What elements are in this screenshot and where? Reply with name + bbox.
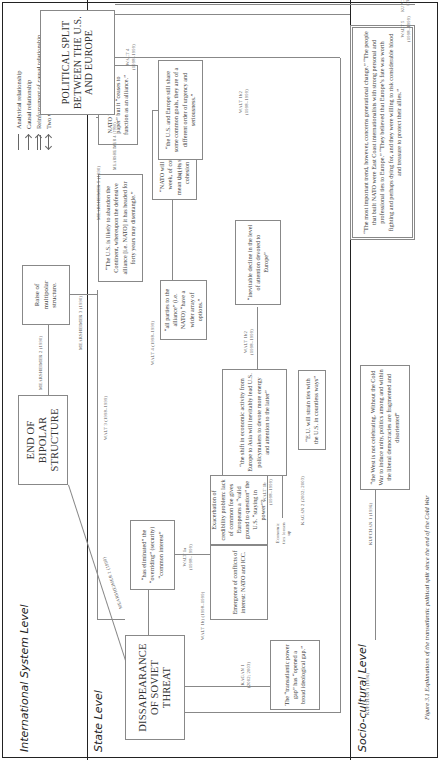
edge-label-walt3: WALT 3 (1998–1999)	[103, 396, 109, 440]
line-icon	[14, 134, 22, 150]
edge-state-bottom	[340, 58, 341, 713]
node-most-important-trend: “The most important trend, however, conc…	[350, 25, 415, 240]
figure-caption: Figure 3.1 Explanations of the transatla…	[423, 495, 430, 720]
edge-kupchan2-up	[115, 4, 415, 5]
node-transatlantic-gap: The “transatlantic power gap” has “opene…	[270, 640, 320, 710]
edge-label-kagan2: KAGAN 2 (2002; 2003)	[300, 476, 306, 525]
edge-label-mearsheimer4: MEARSHEIMER 4 (1990)	[112, 122, 117, 170]
edge-label-walt1b-bottom: WALT 1b) (1998–1999)	[200, 592, 206, 640]
node-has-eliminated: “has eliminated” the “overriding” (secur…	[130, 520, 175, 590]
edge-walt1a	[175, 554, 210, 555]
edge-label-kagan1: KAGAN 1(2002; 2003)	[240, 662, 251, 688]
arrow-icon	[24, 134, 32, 150]
edge-soviet-to-eliminated	[148, 590, 149, 635]
edge-label-walt1b2-b: WALT 1b2(1998–1999)	[238, 89, 249, 115]
node-west-not-celebrating: “the West is not celebrating. Without th…	[360, 365, 410, 490]
node-shift-economic: “the shift in economic activity from Eur…	[222, 369, 287, 476]
node-us-abandon: “The U.S. is likely to abandon the Conti…	[98, 174, 143, 282]
edge-label-kupchan1: KUPCHAN 1 (1996)	[368, 503, 374, 545]
edge-walt3-top-start	[97, 619, 125, 620]
edge-label-economic-ties: Economic ties loosen up	[275, 521, 292, 545]
edge-walt3-top	[97, 290, 98, 620]
edge-state-bottom-right	[115, 57, 340, 58]
edge-label-walt1a: WALT 1a(1998–1999)	[182, 544, 193, 570]
edge-walt5-up	[115, 14, 350, 15]
edge-label-mearsheimer2: MEARSHEIMER 2 (1990)	[38, 336, 44, 390]
edge-label-kupchan1-bottom: KUPCHAN 1 (1996)	[365, 673, 371, 715]
edge-label-mearsheimer5: MEARSHEIMER 5 (1990)	[96, 166, 102, 220]
level-label-international: International System Level	[18, 604, 31, 752]
node-us-europe-goals: “the U.S. and Europe still share some co…	[158, 60, 203, 160]
double-arrow-icon	[34, 134, 42, 150]
edge-label-walt4: WALT 4 (1998–1999)	[150, 321, 156, 365]
edge-state-bottom-left	[185, 712, 340, 713]
edge-mearsheimer5-v	[96, 117, 98, 118]
edge-walt1b	[282, 476, 283, 518]
node-political-split: POLITICAL SPLIT BETWEEN THE U.S. AND EUR…	[40, 10, 115, 115]
node-soviet-threat: DISSAPEARANCE OF SOVIET THREAT	[125, 635, 185, 740]
diagram-canvas: International System Level State Level S…	[0, 0, 440, 760]
level-label-state: State Level	[92, 690, 105, 752]
node-emergence: Emergence of conflicts of interest: NATO…	[210, 545, 268, 620]
legend-item-analytical: Analytical relationship	[14, 71, 22, 150]
edge-label-kupchan2: KUPCHAN 2(1996)	[400, 0, 411, 12]
node-end-bipolar: END OF BIPOLAR STRUCTURE	[18, 395, 68, 485]
node-exacerbation: Exacerbation of credibility problem: lac…	[210, 475, 268, 545]
two-way-arrow-icon	[44, 134, 52, 150]
edge-label-walt1b: WALT 1b(1998–1999)	[262, 479, 273, 505]
edge-walt1b2-a	[257, 307, 258, 369]
edge-kupchan1	[375, 490, 376, 640]
edge-label-mearsheimer3: MEARSHEIMER 3 (1990)	[78, 296, 84, 350]
node-eu-strain: “E.U. will strain ties with the U.S. in …	[298, 370, 326, 450]
edge-mearsheimer3	[70, 294, 98, 295]
node-all-parties: “all parties to the alliance” (i.e. NATO…	[160, 280, 207, 340]
edge-label-walt3b: WALT 3	[178, 163, 184, 180]
edge-mearsheimer2	[48, 325, 49, 395]
node-inevitable-decline: “inevitable decline in the level of atte…	[235, 220, 281, 305]
edge-kagan1-vertical	[185, 686, 270, 687]
node-raise-multipolar: Raise of multipolar structure.	[22, 265, 70, 325]
edge-allparties-to-dissolve	[172, 200, 173, 280]
legend-item-causal: Causal relationship	[24, 80, 32, 150]
edge-label-walt5: WALT 5(1998–1999)	[400, 16, 411, 42]
edge-label-walt1b2-a: WALT 1b2(1998–1999)	[243, 329, 254, 355]
